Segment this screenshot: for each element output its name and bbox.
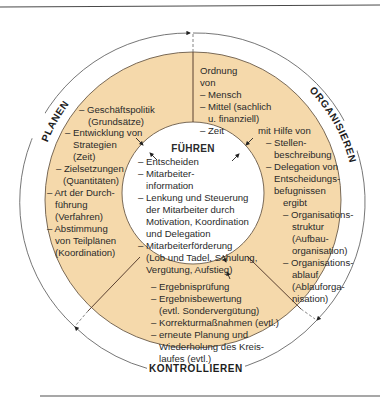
organisieren-line: u. finanziell) (208, 113, 259, 124)
organisieren-line: – Mittel (sachlich (200, 101, 271, 112)
planen-line: – Abstimmung (47, 223, 108, 234)
center-line: information (146, 180, 193, 191)
planen-line: (Koordination) (55, 247, 115, 258)
planen-line: (Quantitäten) (63, 175, 119, 186)
organisieren-line: mit Hilfe von (258, 125, 311, 136)
organisieren-line: – Organisations- (283, 209, 353, 220)
planen-line: von Teilplänen (55, 235, 116, 246)
kontrollieren-line: Wiederholung des Kreis- (159, 341, 264, 352)
planen-line: – Art der Durch- (47, 187, 115, 198)
center-line: – Lenkung und Steuerung (138, 192, 248, 203)
organisieren-line: Entscheidungs- (274, 173, 340, 184)
planen-line: führung (55, 199, 88, 210)
organisieren-line: – Zeit (200, 125, 224, 136)
center-title: FÜHREN (171, 142, 214, 154)
center-line: (Lob und Tadel, Schulung, (146, 252, 257, 263)
kontrollieren-line: – Ergebnisprüfung (151, 281, 229, 292)
planen-line: – Entwicklung von (65, 127, 142, 138)
planen-line: (Grundsätze) (88, 116, 144, 127)
organisieren-line: struktur (292, 221, 325, 232)
center-line: – Mitarbeiter- (138, 168, 195, 179)
kontrollieren-line: – Korrekturmaßnahmen (evtl.) (151, 317, 279, 328)
management-cycle-diagram: PLANEN ORGANISIEREN KONTROLLIEREN FÜHREN… (0, 0, 380, 399)
center-line: Motivation, Koordination (146, 216, 249, 227)
organisieren-line: von (200, 77, 215, 88)
kontrollieren-line: (evtl. Sondervergütung) (159, 305, 259, 316)
cycle-label-kontrollieren: KONTROLLIEREN (149, 363, 243, 374)
organisieren-line: befugnissen (274, 185, 326, 196)
center-line: – Mitarbeiterförderung (138, 240, 232, 251)
organisieren-line: nisation) (292, 293, 328, 304)
organisieren-line: – Mensch (200, 89, 242, 100)
kontrollieren-line: laufes (evtl.) (159, 353, 211, 364)
organisieren-line: ablauf (292, 269, 318, 280)
organisieren-line: organisation) (292, 245, 347, 256)
planen-line: (Verfahren) (55, 211, 103, 222)
organisieren-line: (Aufbau- (292, 233, 329, 244)
kontrollieren-line: – Ergebnisbewertung (151, 293, 242, 304)
organisieren-line: – Stellen- (266, 137, 307, 148)
planen-line: (Zeit) (73, 151, 95, 162)
center-line: und Delegation (146, 228, 211, 239)
planen-line: Strategien (73, 139, 117, 150)
center-line: Vergütung, Aufstieg) (146, 264, 232, 275)
kontrollieren-line: – erneute Planung und (151, 329, 248, 340)
organisieren-line: – Delegation von (266, 161, 338, 172)
organisieren-line: beschreibung (274, 149, 332, 160)
planen-line: – Zielsetzungen (56, 163, 124, 174)
center-line: der Mitarbeiter durch (146, 204, 235, 215)
organisieren-line: ergibt (283, 197, 307, 208)
center-line: – Entscheiden (138, 156, 199, 167)
planen-line: – Geschäftspolitik (79, 104, 155, 115)
organisieren-line: – Organisations- (283, 257, 353, 268)
organisieren-line: (Ablauforga- (292, 281, 345, 292)
top-rule (0, 5, 380, 7)
organisieren-line: Ordnung (200, 65, 237, 76)
